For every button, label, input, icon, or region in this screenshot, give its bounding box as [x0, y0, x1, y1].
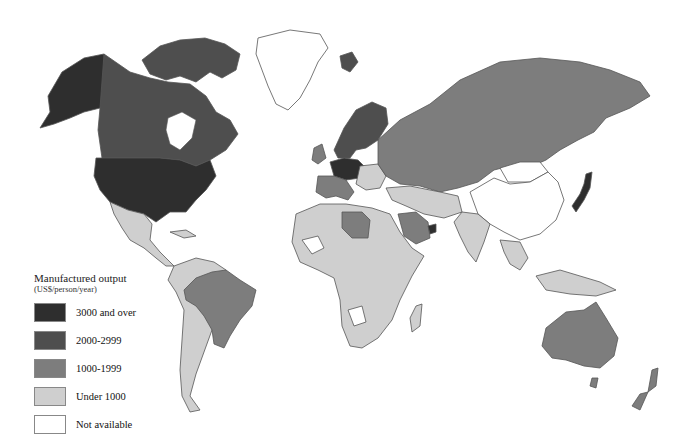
- region-indonesia: [536, 270, 616, 296]
- legend-swatch: [34, 387, 66, 406]
- region-madagascar: [410, 304, 422, 332]
- region-greenland: [256, 30, 328, 110]
- legend-subtitle: (US$/person/year): [34, 284, 194, 295]
- legend-label: Under 1000: [76, 391, 126, 402]
- region-tasmania: [590, 378, 598, 388]
- legend-swatch: [34, 331, 66, 350]
- legend: Manufactured output (US$/person/year) 30…: [34, 272, 194, 437]
- region-india: [454, 212, 490, 262]
- legend-item-1000-1999: 1000-1999: [34, 356, 194, 380]
- region-new-zealand: [632, 368, 658, 410]
- region-canada-arctic: [142, 38, 240, 82]
- region-japan: [572, 172, 592, 212]
- legend-item-3000-over: 3000 and over: [34, 300, 194, 324]
- region-uk: [312, 144, 326, 164]
- legend-swatch: [34, 303, 66, 322]
- region-australia: [542, 302, 618, 368]
- region-caribbean: [170, 230, 196, 238]
- legend-swatch: [34, 415, 66, 434]
- legend-item-under-1000: Under 1000: [34, 384, 194, 408]
- legend-label: 2000-2999: [76, 335, 122, 346]
- legend-label: Not available: [76, 419, 132, 430]
- region-usa: [94, 158, 216, 222]
- region-svalbard: [340, 52, 358, 72]
- legend-label: 1000-1999: [76, 363, 122, 374]
- region-southeast-asia: [500, 240, 528, 270]
- legend-title: Manufactured output: [34, 272, 194, 284]
- legend-swatch: [34, 359, 66, 378]
- legend-item-not-available: Not available: [34, 412, 194, 436]
- legend-item-2000-2999: 2000-2999: [34, 328, 194, 352]
- region-middle-east: [386, 186, 462, 218]
- legend-label: 3000 and over: [76, 307, 136, 318]
